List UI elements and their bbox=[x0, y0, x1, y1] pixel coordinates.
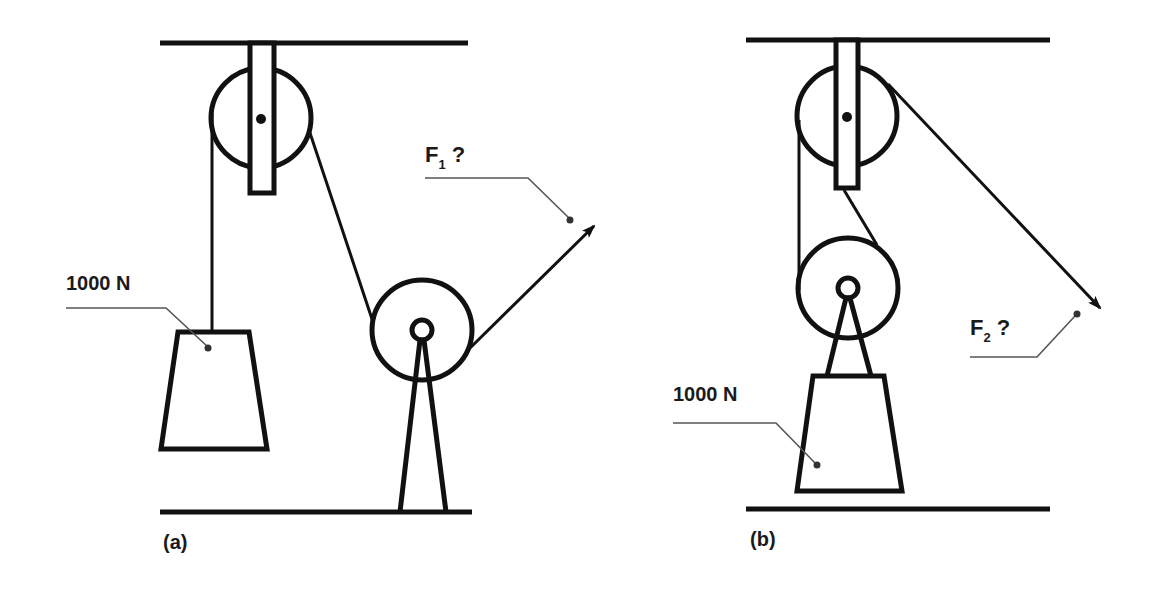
load-leader-b bbox=[673, 423, 815, 463]
force-arrow-a bbox=[468, 226, 594, 350]
pulley-axle-b bbox=[842, 112, 852, 122]
stand-a bbox=[400, 340, 446, 512]
movable-pulley-axle-b bbox=[838, 278, 858, 298]
force-arrow-b bbox=[888, 84, 1100, 308]
panel-a: 1000 N F1? (a) bbox=[66, 43, 594, 553]
force-label-b: F2? bbox=[970, 315, 1010, 345]
load-label-a: 1000 N bbox=[66, 272, 131, 294]
load-leader-dot-a bbox=[205, 345, 212, 352]
pulley-axle-a bbox=[256, 114, 266, 124]
caption-a: (a) bbox=[163, 531, 187, 553]
force-leader-dot-a bbox=[567, 217, 574, 224]
load-label-b: 1000 N bbox=[673, 383, 738, 405]
pulley-diagram: 1000 N F1? (a) 1000 N bbox=[0, 0, 1151, 589]
caption-b: (b) bbox=[750, 528, 776, 550]
load-leader-dot-b bbox=[814, 462, 821, 469]
force-label-a: F1? bbox=[425, 142, 465, 172]
force-leader-a bbox=[425, 178, 569, 218]
force-leader-dot-b bbox=[1074, 311, 1081, 318]
panel-b: 1000 N F2? (b) bbox=[673, 40, 1100, 550]
stand-pulley-axle-a bbox=[412, 320, 432, 340]
load-weight-b bbox=[797, 376, 902, 491]
load-weight-a bbox=[161, 332, 267, 449]
rope-span-a bbox=[309, 130, 373, 322]
